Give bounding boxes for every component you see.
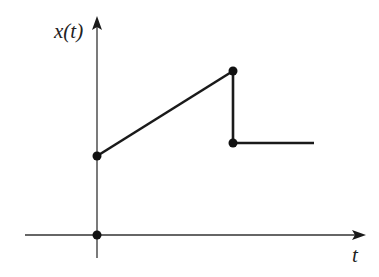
signal-diagram: x(t) t bbox=[0, 0, 379, 277]
x-axis bbox=[25, 230, 366, 240]
peak-dot bbox=[229, 67, 238, 76]
y-axis-label: x(t) bbox=[53, 19, 83, 43]
ramp-segment bbox=[97, 71, 233, 156]
ramp-start-dot bbox=[93, 152, 102, 161]
origin-dot bbox=[93, 231, 102, 240]
y-axis bbox=[92, 16, 102, 258]
drop-end-dot bbox=[229, 139, 238, 148]
x-axis-label: t bbox=[352, 243, 359, 267]
signal-curve bbox=[97, 71, 314, 156]
